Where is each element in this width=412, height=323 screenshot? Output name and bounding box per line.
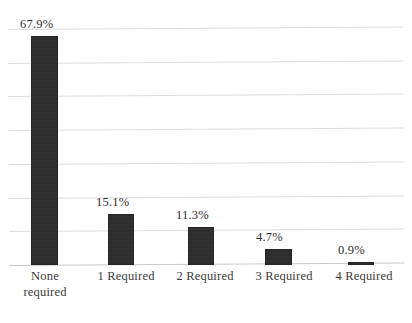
- category-axis-labels: None required1 Required2 Required3 Requi…: [8, 268, 403, 318]
- category-label: 4 Required: [324, 268, 404, 284]
- bar: [108, 214, 134, 265]
- bar-series: [8, 29, 403, 265]
- bar-value-label: 67.9%: [20, 17, 53, 32]
- category-label: 3 Required: [244, 268, 324, 284]
- bar-value-label: 15.1%: [96, 195, 129, 210]
- plot-area: 67.9%15.1%11.3%4.7%0.9%: [8, 29, 403, 265]
- bar-value-label: 4.7%: [256, 230, 283, 245]
- bar: [348, 262, 374, 265]
- bar-value-label: 0.9%: [338, 243, 365, 258]
- category-label: 1 Required: [86, 268, 166, 284]
- category-label: None required: [10, 268, 80, 300]
- bar: [265, 249, 292, 265]
- category-label: 2 Required: [165, 268, 245, 284]
- bar: [31, 36, 58, 265]
- bar-chart: 67.9%15.1%11.3%4.7%0.9% None required1 R…: [0, 0, 412, 323]
- bar-value-label: 11.3%: [176, 208, 209, 223]
- bar: [188, 227, 214, 265]
